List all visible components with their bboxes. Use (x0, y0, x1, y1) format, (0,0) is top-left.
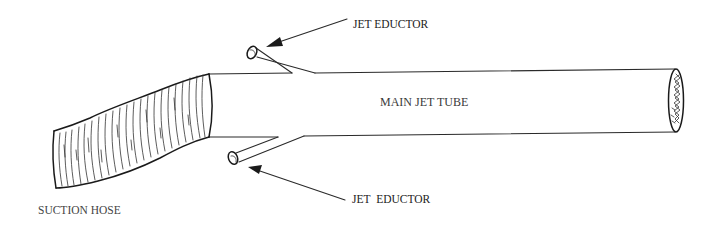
jet-eductor-bottom (227, 136, 304, 166)
tube-end-mesh-icon (669, 69, 684, 132)
jet-eductor-top (245, 45, 315, 73)
main-jet-tube-label: MAIN JET TUBE (380, 96, 468, 108)
suction-hose (53, 74, 212, 188)
arrow-to-bottom-eductor-icon (248, 165, 345, 200)
suction-hose-label: SUCTION HOSE (38, 205, 121, 217)
jet-eductor-bottom-label: JET EDUCTOR (352, 194, 430, 206)
arrow-to-top-eductor-icon (266, 19, 347, 47)
jet-eductor-top-label: JET EDUCTOR (353, 19, 428, 31)
